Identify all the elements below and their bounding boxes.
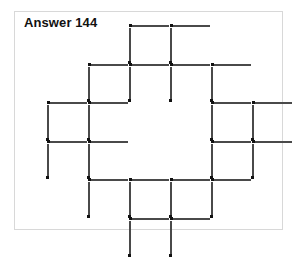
- matchstick-head-icon: [251, 138, 254, 141]
- matchstick-head-icon: [170, 24, 173, 27]
- matchstick-horizontal: [91, 141, 128, 143]
- matchstick-head-icon: [169, 99, 172, 102]
- matchstick-horizontal: [173, 179, 210, 181]
- matchstick-vertical: [129, 67, 131, 102]
- matchstick-vertical: [129, 28, 131, 63]
- matchstick-vertical: [211, 144, 213, 179]
- matchstick-vertical: [88, 105, 90, 140]
- matchstick-horizontal: [132, 179, 169, 181]
- matchstick-horizontal: [91, 102, 128, 104]
- matchstick-horizontal: [91, 179, 128, 181]
- matchstick-vertical: [170, 182, 172, 217]
- matchstick-head-icon: [128, 215, 131, 218]
- matchstick-vertical: [211, 67, 213, 102]
- matchstick-vertical: [211, 105, 213, 140]
- matchstick-head-icon: [87, 138, 90, 141]
- matchstick-vertical: [47, 144, 49, 179]
- matchstick-head-icon: [46, 138, 49, 141]
- matchstick-head-icon: [210, 138, 213, 141]
- matchstick-vertical: [47, 105, 49, 140]
- matchstick-head-icon: [210, 99, 213, 102]
- matchstick-head-icon: [129, 178, 132, 181]
- matchstick-head-icon: [169, 61, 172, 64]
- matchstick-head-icon: [128, 254, 131, 257]
- matchstick-vertical: [170, 221, 172, 256]
- matchstick-head-icon: [87, 215, 90, 218]
- matchstick-head-icon: [87, 99, 90, 102]
- matchstick-head-icon: [251, 176, 254, 179]
- matchstick-vertical: [88, 144, 90, 179]
- matchstick-horizontal: [173, 64, 210, 66]
- matchstick-head-icon: [169, 215, 172, 218]
- matchstick-vertical: [88, 67, 90, 102]
- matchstick-head-icon: [46, 176, 49, 179]
- matchstick-head-icon: [170, 178, 173, 181]
- matchstick-vertical: [252, 105, 254, 140]
- matchstick-vertical: [129, 182, 131, 217]
- matchstick-head-icon: [252, 101, 255, 104]
- matchstick-horizontal: [255, 102, 292, 104]
- matchstick-head-icon: [88, 63, 91, 66]
- matchstick-horizontal: [50, 141, 87, 143]
- matchstick-vertical: [211, 182, 213, 217]
- matchstick-head-icon: [211, 63, 214, 66]
- matchstick-head-icon: [210, 176, 213, 179]
- matchstick-vertical: [129, 221, 131, 256]
- matchstick-horizontal: [132, 218, 169, 220]
- matchstick-horizontal: [173, 218, 210, 220]
- matchstick-horizontal: [214, 64, 251, 66]
- matchstick-head-icon: [129, 24, 132, 27]
- matchstick-vertical: [88, 182, 90, 217]
- matchstick-horizontal: [50, 102, 87, 104]
- matchstick-horizontal: [132, 64, 169, 66]
- matchstick-vertical: [170, 67, 172, 102]
- matchstick-horizontal: [214, 102, 251, 104]
- puzzle-frame: Answer 144: [14, 11, 283, 230]
- matchstick-vertical: [252, 144, 254, 179]
- matchstick-head-icon: [87, 176, 90, 179]
- matchstick-head-icon: [210, 215, 213, 218]
- matchstick-horizontal: [173, 25, 210, 27]
- matchstick-head-icon: [128, 61, 131, 64]
- matchstick-head-icon: [128, 99, 131, 102]
- matchstick-horizontal: [214, 141, 251, 143]
- matchstick-head-icon: [169, 254, 172, 257]
- matchstick-horizontal: [255, 141, 292, 143]
- matchstick-horizontal: [132, 25, 169, 27]
- matchstick-horizontal: [91, 64, 128, 66]
- matchstick-head-icon: [47, 101, 50, 104]
- matchstick-horizontal: [214, 179, 251, 181]
- matchstick-figure: [15, 12, 284, 231]
- matchstick-vertical: [170, 28, 172, 63]
